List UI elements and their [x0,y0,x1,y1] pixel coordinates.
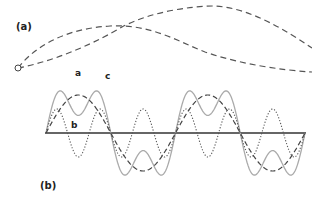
panel-b-label: (b) [40,181,56,191]
pivot-circle [15,65,21,71]
panel-a-curve-lower [18,6,312,68]
panel-a-curves [15,6,312,72]
panel-a-label: (a) [16,22,32,32]
wave-figure [0,0,312,206]
curve-label-c: c [105,72,110,81]
panel-a-curve-upper [18,26,312,72]
curve-label-b: b [71,121,77,130]
curve-label-a: a [75,69,81,78]
